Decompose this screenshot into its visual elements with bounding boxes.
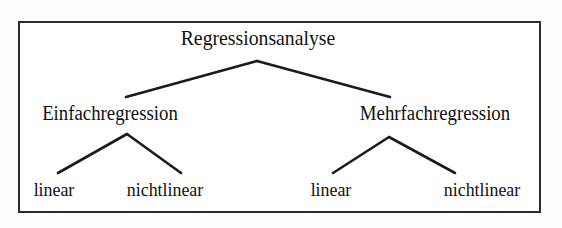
node-root-regressionsanalyse: Regressionsanalyse bbox=[167, 28, 349, 49]
node-branch-mehrfachregression: Mehrfachregression bbox=[339, 103, 531, 123]
regression-analysis-diagram: Regressionsanalyse Einfachregression Meh… bbox=[0, 0, 562, 228]
node-branch-einfachregression: Einfachregression bbox=[27, 103, 192, 123]
node-leaf-einfach-nichtlinear: nichtlinear bbox=[115, 180, 215, 199]
node-leaf-mehrfach-nichtlinear: nichtlinear bbox=[429, 180, 534, 199]
node-leaf-einfach-linear: linear bbox=[26, 180, 82, 199]
node-leaf-mehrfach-linear: linear bbox=[303, 180, 359, 199]
